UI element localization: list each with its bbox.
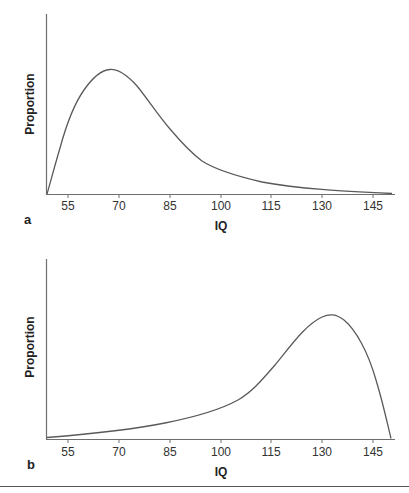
tick-label: 85 bbox=[163, 445, 177, 459]
tick-label: 145 bbox=[363, 445, 383, 459]
x-axis-label: IQ bbox=[215, 219, 228, 233]
tick-label: 85 bbox=[163, 199, 177, 213]
panel-label-b: b bbox=[27, 457, 35, 472]
tick-label: 55 bbox=[61, 445, 75, 459]
x-axis-label: IQ bbox=[215, 465, 228, 479]
figure: 55 70 85 100 115 130 145 IQ Proportion a… bbox=[0, 0, 409, 493]
y-axis-label: Proportion bbox=[23, 316, 37, 377]
tick-label: 130 bbox=[312, 445, 332, 459]
chart-panel-a: 55 70 85 100 115 130 145 IQ Proportion a bbox=[23, 14, 395, 233]
tick-label: 70 bbox=[112, 199, 126, 213]
tick-label: 100 bbox=[211, 199, 231, 213]
panel-label-a: a bbox=[24, 212, 32, 227]
tick-label: 130 bbox=[312, 199, 332, 213]
y-axis-label: Proportion bbox=[23, 73, 37, 134]
tick-label: 115 bbox=[261, 199, 280, 213]
chart-panel-b: 55 70 85 100 115 130 145 IQ Proportion b bbox=[23, 259, 395, 479]
distribution-curve-a bbox=[47, 69, 392, 194]
x-tick-labels: 55 70 85 100 115 130 145 bbox=[61, 445, 383, 459]
tick-label: 55 bbox=[61, 199, 75, 213]
tick-label: 115 bbox=[261, 445, 280, 459]
x-tick-labels: 55 70 85 100 115 130 145 bbox=[61, 199, 383, 213]
distribution-curve-b bbox=[47, 315, 391, 439]
tick-label: 145 bbox=[363, 199, 383, 213]
tick-label: 100 bbox=[211, 445, 231, 459]
tick-label: 70 bbox=[112, 445, 126, 459]
